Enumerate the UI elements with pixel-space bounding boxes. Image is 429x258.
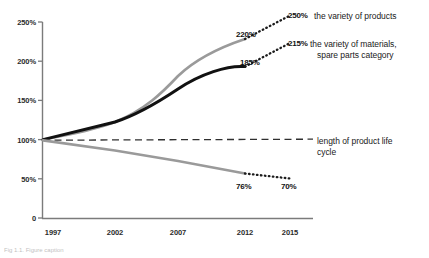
y-tick-label-50: 50% [0,175,36,184]
data-label-materials-2012: 185% [240,58,260,67]
figure-caption: Fig 1.1. Figure caption [4,247,64,253]
series-line-materials [43,61,245,139]
data-label-products-2012: 220% [236,30,256,39]
data-label-lifecycle-2012: 76% [236,182,251,191]
legend-label-lifecycle-line2: cycle [317,147,336,158]
x-tick-label-2015: 2015 [270,228,310,237]
legend-label-products: the variety of products [314,11,396,22]
x-tick-label-1997: 1997 [33,228,73,237]
chart-container: 250% 200% 150% 100% 50% 0 1997 2002 2007… [0,0,429,258]
y-tick-label-200: 200% [0,57,36,66]
y-tick-label-250: 250% [0,18,36,27]
series-line-decline [43,140,245,173]
series-line-materials-stroke [43,63,245,140]
series-line-materials-visible [43,64,245,140]
legend-label-materials-line2: spare parts category [317,50,393,61]
legend-label-lifecycle-line1: length of product life [317,136,392,147]
x-tick-label-2002: 2002 [95,228,135,237]
series-line-materials-main [43,65,245,140]
y-tick-label-100: 100% [0,136,36,145]
x-tick-label-2007: 2007 [158,228,198,237]
y-tick-label-150: 150% [0,96,36,105]
data-label-lifecycle-2015: 70% [281,182,296,191]
series-line-products [43,39,245,140]
y-tick-label-0: 0 [0,214,36,223]
data-label-products-2015: 250% [288,11,308,20]
x-tick-label-2012: 2012 [225,228,265,237]
series-line-materials-path [43,66,245,139]
series-line-decline-forecast [245,174,290,179]
data-label-materials-2015: 215% [288,39,308,48]
series-line-materials-draw [43,63,245,139]
legend-label-materials-line1: the variety of materials, [310,39,397,50]
series-line-materials-final [43,66,245,140]
series-line-lifecycle-flat [43,139,313,140]
